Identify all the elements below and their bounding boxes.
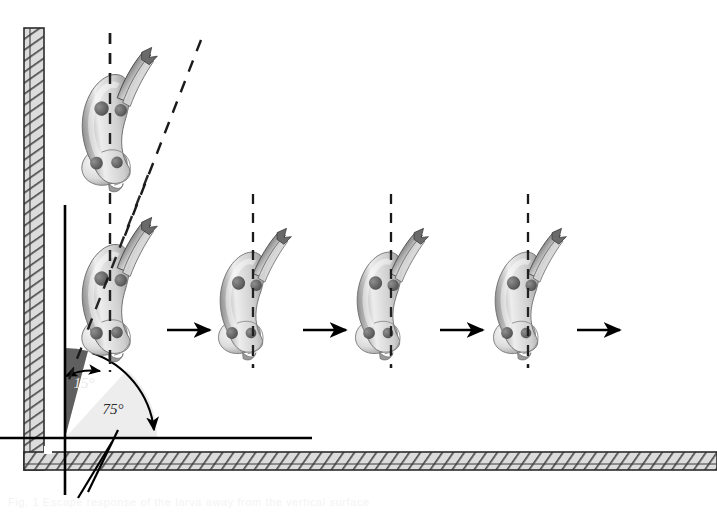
larva-4	[333, 228, 455, 366]
larva-5	[471, 228, 593, 366]
diagram-svg: 15° 75°	[0, 0, 717, 520]
wall-corner-joint	[44, 446, 52, 454]
horizontal-wall	[24, 452, 717, 470]
vertical-wall	[24, 28, 44, 470]
angle-label-15: 15°	[74, 375, 95, 391]
figure-canvas: 15° 75° Fig. 1 Escape response of the la…	[0, 0, 717, 520]
dashed-vertical-overlays	[86, 33, 528, 372]
larva-3	[196, 228, 318, 366]
scan-artifact-text: Fig. 1 Escape response of the larva away…	[0, 496, 717, 514]
angle-label-75: 75°	[103, 401, 124, 417]
